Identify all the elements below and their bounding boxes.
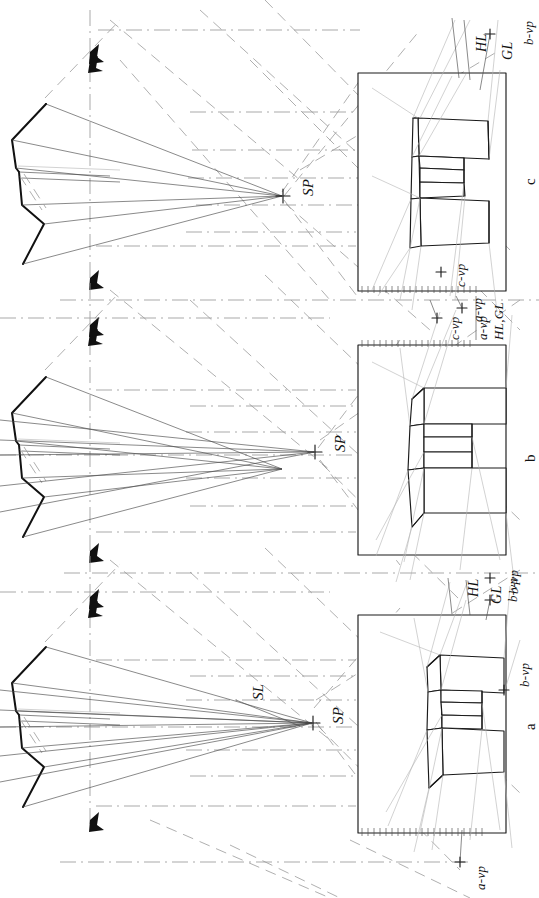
label-bvp-a-frame: b-vp <box>517 663 533 687</box>
panel-a <box>236 578 520 867</box>
panel-label-b: b <box>522 454 539 462</box>
plan-view-a <box>0 556 320 832</box>
label-cvp-c: c-vp <box>453 263 469 287</box>
panel-label-c: c <box>522 178 539 185</box>
label-sp-a: SP <box>330 707 347 724</box>
label-sl: SL <box>250 684 267 700</box>
label-hl-c: HL <box>474 34 490 53</box>
label-gl-a: GL <box>489 586 505 605</box>
drawing-canvas: .ink {stroke:#1a1a1a;stroke-width:1.15;f… <box>0 0 539 898</box>
label-sp-c: SP <box>300 179 317 196</box>
label-avp-b: a-vp <box>470 298 486 322</box>
label-bvp-c: b-vp <box>521 21 537 45</box>
label-sp-b: SP <box>332 435 349 452</box>
perspective-drawing-sheet: .ink {stroke:#1a1a1a;stroke-width:1.15;f… <box>0 0 539 898</box>
ground-line-ticks-a <box>362 828 482 836</box>
label-gl-c: GL <box>500 42 516 61</box>
label-avp-a: a-vp <box>473 866 489 890</box>
panel-c <box>358 18 506 312</box>
plan-view-b <box>0 283 322 563</box>
b-vp-marker-b <box>485 573 495 583</box>
panel-label-a: a <box>522 723 539 730</box>
label-hl-a: HL <box>466 579 482 598</box>
label-bvp-a-top: b-vp <box>506 570 522 594</box>
label-hlgl-b: HL,GL <box>491 302 507 340</box>
label-cvp-b: c-vp <box>447 316 463 340</box>
